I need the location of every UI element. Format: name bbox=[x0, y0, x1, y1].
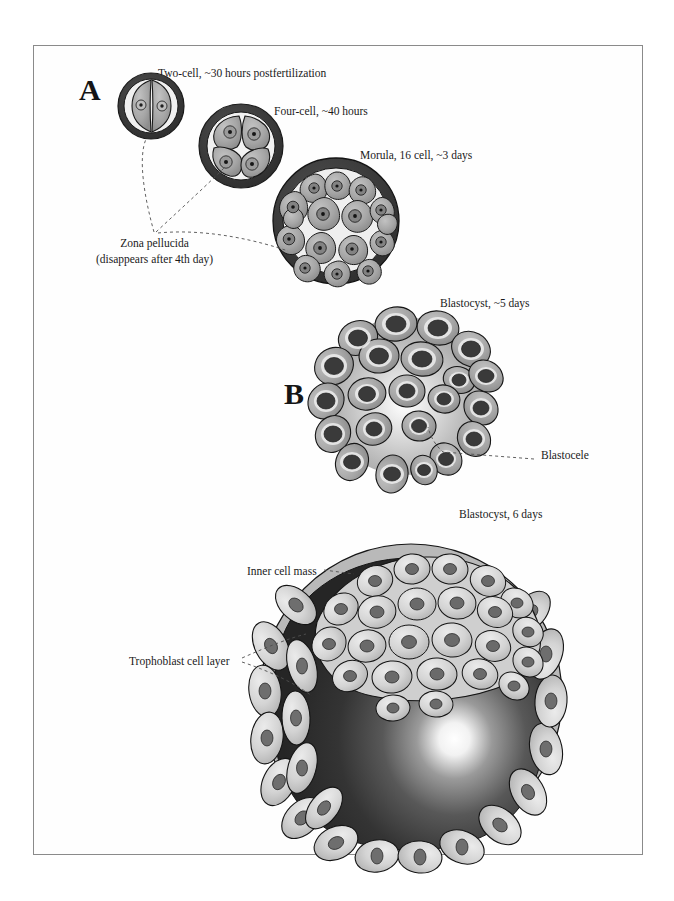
embryo-illustrations bbox=[34, 46, 644, 856]
figure-frame: A B C Two-cell, ~30 hours postfertilizat… bbox=[33, 45, 643, 855]
stage-morula bbox=[273, 158, 399, 287]
stage-blastocyst-early bbox=[301, 304, 510, 495]
stage-blastocyst-late bbox=[245, 544, 570, 876]
stage-two-cell bbox=[118, 73, 184, 139]
stage-four-cell bbox=[199, 104, 283, 188]
